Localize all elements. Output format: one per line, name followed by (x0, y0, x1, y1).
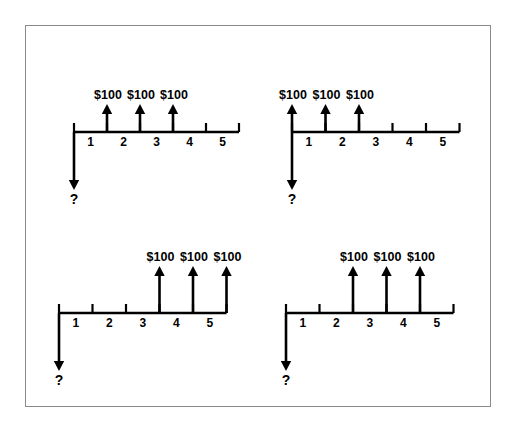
timeline-svg-a: 12345$100$100$100? (44, 54, 274, 214)
figure-border: 12345$100$100$100? 12345$100$100$100? 12… (25, 25, 491, 407)
cashflow-amount-t4: $100 (407, 250, 435, 264)
period-label-5: 5 (439, 135, 446, 149)
period-label-4: 4 (400, 316, 407, 330)
cashflow-arrowhead-t1 (320, 104, 330, 114)
period-label-1: 1 (87, 135, 94, 149)
cashflow-arrowhead-t1 (102, 104, 112, 114)
cashflow-amount-t0: $100 (279, 88, 307, 102)
timeline-panel-d: 12345$100$100$100? (256, 221, 492, 391)
cashflow-amount-t2: $100 (340, 250, 368, 264)
period-label-1: 1 (305, 135, 312, 149)
timeline-svg-d: 12345$100$100$100? (256, 221, 492, 391)
timeline-panel-a: 12345$100$100$100? (44, 54, 274, 214)
period-label-2: 2 (106, 316, 113, 330)
timeline-panel-c: 12345$100$100$100? (26, 221, 276, 391)
cashflow-arrowhead-t3 (381, 266, 391, 276)
period-label-5: 5 (433, 316, 440, 330)
unknown-arrowhead (54, 361, 64, 371)
cashflow-amount-t2: $100 (127, 88, 155, 102)
cashflow-amount-t5: $100 (214, 250, 242, 264)
cashflow-arrowhead-t2 (348, 266, 358, 276)
cashflow-arrowhead-t2 (135, 104, 145, 114)
period-label-4: 4 (186, 135, 193, 149)
period-label-1: 1 (72, 316, 79, 330)
cashflow-amount-t3: $100 (374, 250, 402, 264)
period-label-4: 4 (173, 316, 180, 330)
cashflow-amount-t2: $100 (346, 88, 374, 102)
period-label-3: 3 (372, 135, 379, 149)
cashflow-amount-t3: $100 (147, 250, 175, 264)
cashflow-amount-t1: $100 (313, 88, 341, 102)
cashflow-arrowhead-t3 (154, 266, 164, 276)
cashflow-amount-t3: $100 (160, 88, 188, 102)
cashflow-arrowhead-t4 (188, 266, 198, 276)
cashflow-arrowhead-t3 (168, 104, 178, 114)
cashflow-arrowhead-t0 (287, 104, 297, 114)
unknown-arrowhead (69, 180, 79, 190)
period-label-2: 2 (120, 135, 127, 149)
period-label-2: 2 (333, 316, 340, 330)
period-label-5: 5 (206, 316, 213, 330)
period-label-1: 1 (299, 316, 306, 330)
timeline-svg-c: 12345$100$100$100? (26, 221, 276, 391)
unknown-label: ? (70, 191, 79, 207)
unknown-label: ? (282, 372, 291, 388)
cashflow-arrowhead-t5 (221, 266, 231, 276)
period-label-2: 2 (339, 135, 346, 149)
period-label-5: 5 (219, 135, 226, 149)
period-label-3: 3 (139, 316, 146, 330)
period-label-3: 3 (153, 135, 160, 149)
cashflow-amount-t4: $100 (180, 250, 208, 264)
unknown-label: ? (288, 191, 297, 207)
unknown-arrowhead (287, 180, 297, 190)
period-label-4: 4 (406, 135, 413, 149)
timeline-panel-b: 12345$100$100$100? (262, 54, 492, 214)
cashflow-arrowhead-t2 (354, 104, 364, 114)
timeline-svg-b: 12345$100$100$100? (262, 54, 492, 214)
cashflow-arrowhead-t4 (415, 266, 425, 276)
cashflow-amount-t1: $100 (94, 88, 122, 102)
unknown-label: ? (55, 372, 64, 388)
unknown-arrowhead (281, 361, 291, 371)
period-label-3: 3 (366, 316, 373, 330)
